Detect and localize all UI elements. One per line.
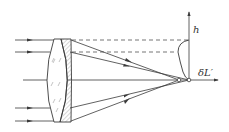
spherical-aberration-curve <box>178 40 189 80</box>
lens-aberration-diagram: h δL′ <box>0 0 229 132</box>
delta-l-label: δL′ <box>198 67 214 78</box>
paraxial-focus-point <box>187 78 191 82</box>
ray-height-dashes <box>72 40 188 52</box>
h-axis-label: h <box>193 24 199 35</box>
incident-ray-arrows <box>27 39 33 123</box>
marginal-focus-point <box>177 78 181 82</box>
refracted-ray-arrows <box>123 58 132 104</box>
